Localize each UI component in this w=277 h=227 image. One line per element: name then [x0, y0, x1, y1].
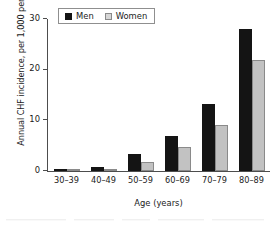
- y-axis-tick: 30: [43, 18, 47, 19]
- bar-men-30–39: [54, 169, 67, 171]
- y-axis-tick-label: 0: [35, 165, 40, 175]
- page-scan-artifact: [0, 215, 277, 225]
- bar-men-50–59: [128, 154, 141, 171]
- plot-area: 0102030 30–3940–4950–5960–6970–7980–89: [47, 19, 270, 172]
- bar-women-50–59: [141, 162, 154, 171]
- bar-group: 70–79: [196, 19, 233, 171]
- x-axis-tick-label: 60–69: [165, 175, 190, 185]
- bar-group: 50–59: [122, 19, 159, 171]
- y-axis-tick: 10: [43, 119, 47, 120]
- bar-group: 40–49: [85, 19, 122, 171]
- y-axis-tick: 20: [43, 69, 47, 70]
- bar-groups: 30–3940–4950–5960–6970–7980–89: [48, 19, 270, 171]
- y-axis-tick-label: 10: [29, 114, 40, 124]
- bar-men-80–89: [239, 29, 252, 171]
- bar-women-60–69: [178, 147, 191, 171]
- bar-women-80–89: [252, 60, 265, 171]
- chart-figure: Annual CHF incidence, per 1,000 persons …: [0, 0, 277, 227]
- x-axis-tick-label: 80–89: [239, 175, 264, 185]
- bar-group: 60–69: [159, 19, 196, 171]
- x-axis-tick-label: 40–49: [91, 175, 116, 185]
- x-axis-tick-label: 50–59: [128, 175, 153, 185]
- y-axis-tick-label: 20: [29, 63, 40, 73]
- bar-women-70–79: [215, 125, 228, 171]
- x-axis-line: [47, 171, 270, 172]
- bar-women-40–49: [104, 169, 117, 171]
- bar-group: 30–39: [48, 19, 85, 171]
- bar-women-30–39: [67, 169, 80, 171]
- x-axis-title: Age (years): [47, 198, 270, 208]
- y-axis-title: Annual CHF incidence, per 1,000 persons: [16, 0, 26, 148]
- bar-group: 80–89: [233, 19, 270, 171]
- bar-men-70–79: [202, 104, 215, 171]
- x-axis-tick-label: 30–39: [54, 175, 79, 185]
- bar-men-60–69: [165, 136, 178, 171]
- y-axis-tick: 0: [43, 170, 47, 171]
- bar-men-40–49: [91, 167, 104, 171]
- x-axis-tick-label: 70–79: [202, 175, 227, 185]
- y-axis-tick-label: 30: [29, 13, 40, 23]
